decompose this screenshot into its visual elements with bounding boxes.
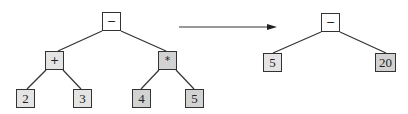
before-times-node: *	[158, 51, 177, 70]
edge-root-times	[121, 31, 166, 51]
before-leaf-3: 3	[73, 89, 92, 108]
node-label: +	[50, 54, 59, 67]
before-leaf-4: 4	[132, 89, 151, 108]
after-leaf-5: 5	[263, 53, 282, 72]
before-leaf-5: 5	[185, 89, 204, 108]
edge-times-5	[176, 70, 194, 89]
edge-plus-2	[27, 70, 46, 89]
after-root-minus-node: −	[321, 13, 340, 32]
edge-root-plus	[58, 31, 102, 51]
edge-result-root-5	[273, 32, 321, 53]
node-label: −	[326, 16, 335, 29]
node-label: 3	[79, 91, 86, 107]
edge-result-root-20	[340, 32, 386, 53]
node-label: 5	[269, 55, 276, 71]
node-label: −	[107, 15, 116, 28]
edge-times-4	[141, 70, 159, 89]
edge-plus-3	[63, 70, 81, 89]
node-label: *	[165, 54, 171, 67]
arrow-head-icon	[267, 24, 277, 30]
before-plus-node: +	[45, 51, 64, 70]
node-label: 5	[191, 91, 198, 107]
before-root-minus-node: −	[102, 12, 121, 31]
node-label: 4	[138, 91, 145, 107]
after-leaf-20: 20	[375, 53, 396, 72]
node-label: 2	[22, 91, 29, 107]
node-label: 20	[379, 55, 392, 71]
before-leaf-2: 2	[16, 89, 35, 108]
